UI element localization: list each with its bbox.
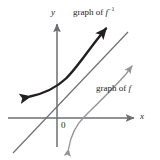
graph-of-f-inverse-prefix: graph of	[73, 7, 106, 17]
graph-of-f-prefix: graph of	[96, 83, 129, 93]
math-figure-svg	[0, 0, 160, 160]
f-curve	[69, 66, 133, 149]
y-axis-label: y	[51, 8, 55, 17]
graph-of-f-inverse-superscript: −1	[108, 6, 114, 12]
graph-of-f-symbol: f	[129, 83, 132, 93]
origin-label: 0	[61, 121, 66, 130]
graph-of-f-inverse-label: graph of f−1	[73, 8, 114, 17]
figure-container: y x 0 graph of f−1 graph of f	[0, 0, 160, 160]
f-inverse-curve	[30, 29, 106, 97]
graph-of-f-label: graph of f	[96, 84, 131, 93]
x-axis-label: x	[140, 112, 144, 121]
